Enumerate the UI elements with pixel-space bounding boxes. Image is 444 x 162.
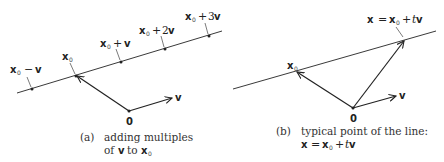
panel-a: 0 v x 0 − v x 0 x 0 + v x [10, 10, 222, 157]
svg-text:+: + [335, 138, 344, 151]
svg-text:+: + [152, 24, 161, 37]
v-label: v [175, 92, 182, 103]
svg-text:x: x [185, 11, 192, 22]
point-dot [208, 35, 211, 38]
svg-text:v: v [35, 64, 42, 75]
svg-text:0: 0 [329, 144, 333, 151]
label-x0: x 0 [62, 51, 73, 63]
svg-text:v: v [214, 11, 221, 22]
label-x0-plus-3v: x 0 + 3 v [185, 10, 221, 23]
svg-text:x: x [367, 14, 374, 25]
label-x0-plus-v: x 0 + v [100, 37, 131, 50]
svg-text:+: + [113, 37, 122, 50]
caption-b: (b) typical point of the line: x = x 0 +… [276, 125, 428, 151]
origin-label: 0 [126, 116, 133, 127]
svg-text:−: − [24, 63, 33, 76]
point-dot [120, 61, 123, 64]
svg-text:0: 0 [17, 69, 21, 76]
vector-x0-arrow [297, 72, 353, 108]
svg-text:v: v [168, 25, 175, 36]
figure: 0 v x 0 − v x 0 x 0 + v x [0, 0, 444, 162]
v-label: v [399, 90, 406, 101]
label-x0: x 0 [287, 60, 298, 72]
svg-text:typical point of the line:: typical point of the line: [301, 125, 428, 137]
vector-v-arrow [129, 98, 172, 111]
svg-text:v: v [416, 14, 423, 25]
svg-text:x: x [287, 60, 294, 71]
vector-x-arrow [353, 41, 404, 108]
svg-text:x: x [301, 139, 308, 150]
svg-text:v: v [349, 139, 356, 150]
svg-text:x: x [139, 25, 146, 36]
svg-text:0: 0 [294, 65, 298, 72]
svg-text:(b): (b) [276, 125, 291, 137]
svg-text:+: + [198, 10, 207, 23]
svg-text:=: = [378, 13, 387, 26]
line-b [233, 31, 436, 89]
vector-v-arrow [353, 96, 396, 108]
panel-b: 0 v x 0 x = x 0 + t v (b) typical point … [233, 13, 436, 151]
leader-line [70, 63, 75, 74]
label-x0-minus-v: x 0 − v [10, 63, 42, 76]
leader-line [27, 77, 31, 87]
svg-text:0: 0 [396, 19, 400, 26]
svg-text:x: x [10, 64, 17, 75]
svg-text:(a): (a) [80, 131, 94, 143]
svg-text:of: of [104, 144, 115, 156]
label-x-equals-x0-plus-tv: x = x 0 + t v [367, 13, 423, 26]
leader-line [116, 49, 120, 60]
leader-line [161, 36, 164, 47]
svg-text:v: v [124, 38, 131, 49]
svg-text:x: x [141, 145, 148, 156]
svg-text:x: x [100, 38, 107, 49]
svg-text:adding multiples: adding multiples [104, 131, 193, 143]
origin-dot [352, 107, 355, 110]
origin-dot [128, 110, 131, 113]
vector-x0-arrow [77, 76, 129, 111]
svg-text:+: + [402, 13, 411, 26]
svg-text:0: 0 [107, 43, 111, 50]
caption-a: (a) adding multiples of v to x 0 [80, 131, 193, 157]
point-dot [31, 88, 34, 91]
leader-line [205, 23, 208, 34]
svg-text:x: x [322, 139, 329, 150]
svg-text:=: = [311, 138, 320, 151]
svg-text:0: 0 [192, 16, 196, 23]
label-x0-plus-2v: x 0 + 2 v [139, 24, 175, 37]
svg-text:0: 0 [69, 56, 73, 63]
svg-text:x: x [62, 51, 69, 62]
point-dot [164, 48, 167, 51]
svg-text:to: to [127, 144, 138, 156]
svg-text:0: 0 [146, 30, 150, 37]
leader-line [396, 27, 403, 37]
svg-text:0: 0 [148, 150, 152, 157]
svg-text:x: x [389, 14, 396, 25]
svg-text:v: v [118, 145, 125, 156]
origin-label: 0 [350, 113, 357, 124]
point-dot [75, 75, 78, 78]
